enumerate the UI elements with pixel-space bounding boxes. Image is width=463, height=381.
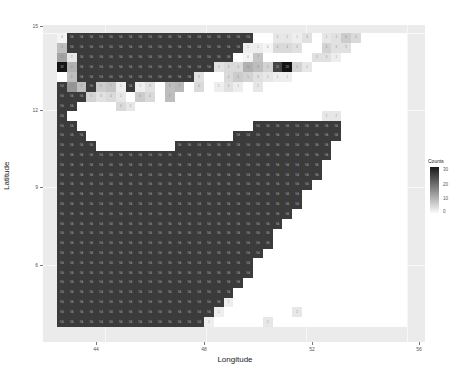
heatmap-cell: NA	[243, 229, 253, 239]
heatmap-cell: NA	[243, 219, 253, 229]
heatmap-cell: NA	[96, 200, 106, 210]
heatmap-cell: NA	[57, 190, 67, 200]
heatmap-cell: 6	[135, 92, 145, 102]
heatmap-cell: NA	[77, 53, 87, 63]
heatmap-cell: NA	[214, 278, 224, 288]
heatmap-cell: NA	[175, 160, 185, 170]
heatmap-cell: NA	[233, 200, 243, 210]
heatmap-cell: NA	[282, 180, 292, 190]
heatmap-cell: NA	[282, 160, 292, 170]
heatmap-cell: 4	[224, 62, 234, 72]
heatmap-cell: NA	[253, 121, 263, 131]
heatmap-cell: NA	[126, 229, 136, 239]
heatmap-cell: NA	[67, 268, 77, 278]
heatmap-cell: NA	[322, 151, 332, 161]
heatmap-cell: 2	[322, 111, 332, 121]
heatmap-cell: NA	[86, 53, 96, 63]
heatmap-cell: NA	[224, 170, 234, 180]
heatmap-cell: NA	[86, 209, 96, 219]
heatmap-cell: NA	[86, 219, 96, 229]
heatmap-cell: NA	[57, 239, 67, 249]
heatmap-cell: NA	[135, 249, 145, 259]
heatmap-cell: NA	[253, 219, 263, 229]
heatmap-cell: NA	[155, 258, 165, 268]
heatmap-cell: NA	[155, 278, 165, 288]
heatmap-cell: NA	[184, 53, 194, 63]
heatmap-cell: 1	[214, 82, 224, 92]
heatmap-cell: 26	[273, 62, 283, 72]
heatmap-cell: NA	[116, 317, 126, 327]
heatmap-cell: NA	[106, 219, 116, 229]
heatmap-cell: NA	[155, 229, 165, 239]
heatmap-cell: NA	[155, 298, 165, 308]
heatmap-cell: NA	[57, 160, 67, 170]
heatmap-cell: 2	[263, 72, 273, 82]
x-tick-label: 48	[194, 346, 214, 352]
heatmap-cell: 7	[106, 82, 116, 92]
heatmap-cell: NA	[86, 249, 96, 259]
heatmap-cell: NA	[165, 239, 175, 249]
heatmap-cell: NA	[184, 33, 194, 43]
heatmap-cell: NA	[175, 62, 185, 72]
heatmap-cell: NA	[214, 33, 224, 43]
heatmap-cell: NA	[135, 288, 145, 298]
heatmap-cell: NA	[214, 160, 224, 170]
heatmap-cell: NA	[155, 288, 165, 298]
heatmap-cell: NA	[292, 141, 302, 151]
heatmap-cell: NA	[214, 268, 224, 278]
heatmap-cell: NA	[194, 53, 204, 63]
heatmap-cell: NA	[116, 298, 126, 308]
heatmap-cell: NA	[145, 33, 155, 43]
heatmap-cell: NA	[175, 229, 185, 239]
heatmap-cell: NA	[67, 249, 77, 259]
heatmap-cell: NA	[214, 239, 224, 249]
heatmap-cell: NA	[194, 141, 204, 151]
heatmap-cell: 8	[165, 92, 175, 102]
heatmap-cell: NA	[194, 33, 204, 43]
heatmap-cell: NA	[233, 239, 243, 249]
heatmap-cell: NA	[175, 278, 185, 288]
heatmap-cell: NA	[165, 151, 175, 161]
heatmap-cell: NA	[263, 141, 273, 151]
heatmap-cell: NA	[86, 258, 96, 268]
heatmap-cell: NA	[106, 288, 116, 298]
heatmap-cell: NA	[204, 170, 214, 180]
y-tick-mark	[40, 110, 43, 111]
heatmap-cell: NA	[145, 307, 155, 317]
heatmap-cell: NA	[322, 121, 332, 131]
heatmap-cell: NA	[116, 190, 126, 200]
heatmap-cell: NA	[126, 33, 136, 43]
heatmap-cell: NA	[116, 180, 126, 190]
heatmap-cell: NA	[214, 249, 224, 259]
heatmap-cell: NA	[243, 33, 253, 43]
heatmap-cell: NA	[263, 209, 273, 219]
heatmap-cell: NA	[263, 180, 273, 190]
heatmap-cell: NA	[116, 239, 126, 249]
heatmap-cell: NA	[243, 151, 253, 161]
heatmap-cell: NA	[116, 72, 126, 82]
heatmap-cell: NA	[322, 131, 332, 141]
heatmap-cell: NA	[184, 180, 194, 190]
heatmap-cell: NA	[175, 288, 185, 298]
heatmap-cell: 4	[273, 43, 283, 53]
heatmap-cell: NA	[184, 239, 194, 249]
heatmap-cell: NA	[204, 180, 214, 190]
heatmap-cell: NA	[233, 209, 243, 219]
y-tick-mark	[40, 265, 43, 266]
heatmap-cell: NA	[204, 249, 214, 259]
heatmap-cell: NA	[135, 72, 145, 82]
heatmap-cell: NA	[273, 200, 283, 210]
heatmap-cell: NA	[67, 131, 77, 141]
heatmap-cell: NA	[194, 200, 204, 210]
heatmap-cell: NA	[165, 307, 175, 317]
heatmap-cell: 3	[341, 43, 351, 53]
heatmap-cell: NA	[86, 33, 96, 43]
heatmap-cell: NA	[96, 33, 106, 43]
heatmap-cell: NA	[96, 258, 106, 268]
heatmap-cell: NA	[126, 190, 136, 200]
heatmap-cell: NA	[67, 33, 77, 43]
heatmap-cell: NA	[57, 288, 67, 298]
heatmap-cell: NA	[233, 229, 243, 239]
heatmap-cell: NA	[155, 33, 165, 43]
heatmap-cell: NA	[145, 170, 155, 180]
